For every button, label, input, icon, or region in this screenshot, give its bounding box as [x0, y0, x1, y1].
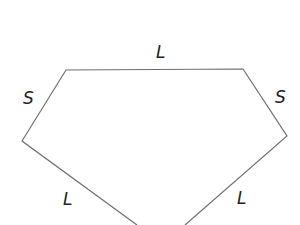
label-upper-left-side: S — [23, 88, 34, 108]
label-upper-right-side: S — [275, 87, 286, 107]
kite-outline — [22, 69, 287, 225]
label-lower-right-side: L — [237, 188, 246, 208]
kite-diagram: L S S L L — [0, 0, 300, 225]
label-top-side: L — [156, 42, 165, 62]
label-lower-left-side: L — [63, 189, 72, 209]
